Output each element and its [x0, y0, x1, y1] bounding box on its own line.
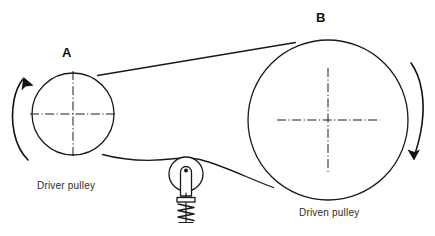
pulley-a-label: A — [62, 45, 72, 60]
rotation-arrow-left — [13, 77, 34, 160]
diagram-canvas — [0, 0, 435, 236]
driven-pulley-group — [248, 40, 408, 200]
driver-pulley-group — [30, 71, 116, 157]
spring-seat-plate — [177, 198, 195, 203]
rotation-arrow-right — [408, 63, 424, 161]
idler-pivot-dot — [184, 169, 188, 173]
rotation-arrow-right-head — [408, 150, 421, 161]
rotation-arrow-left-head — [22, 77, 34, 91]
idler-tensioner-group — [169, 157, 203, 223]
driven-pulley-caption: Driven pulley — [299, 207, 359, 218]
rotation-arrow-left-arc — [13, 79, 28, 160]
belt-drive-diagram: A B Driver pulley Driven pulley — [0, 0, 435, 236]
driver-pulley-caption: Driver pulley — [37, 180, 95, 191]
pulley-b-label: B — [316, 10, 326, 25]
rotation-arrow-right-arc — [411, 63, 423, 155]
